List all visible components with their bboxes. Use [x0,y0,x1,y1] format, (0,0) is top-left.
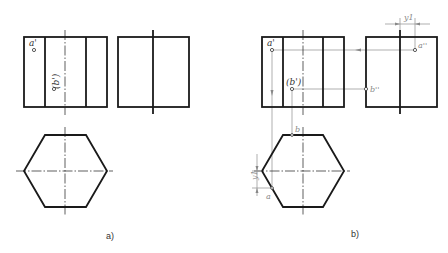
side-view-a [118,30,189,114]
label-y1: y1 [403,13,414,22]
panel-a: a' (b') a) [16,30,189,241]
projection-diagram: a' (b') a) y1 [0,0,448,253]
arrow-icon [415,23,420,26]
panel-b: y1 a' (b') a'' b [250,13,437,239]
front-view-b: a' (b') [262,30,344,115]
label-b-prime: (b') [51,73,61,89]
point-b [291,134,294,137]
arrow-icon [395,23,400,26]
point-b-prime [290,87,293,90]
front-view-a: a' (b') [24,30,107,115]
label-a-prime: a' [267,38,275,48]
point-a-prime [270,48,273,51]
point-a-prime [32,48,35,51]
arrow-icon [355,49,361,52]
label-a-double-prime: a'' [418,41,427,50]
label-b-prime: (b') [286,77,302,87]
label-a-prime: a' [29,38,37,48]
point-a-double-prime [413,48,416,51]
caption-a: a) [106,231,114,241]
top-view-a [16,127,113,215]
label-a: a [266,192,271,201]
arrow-icon [271,90,274,96]
label-b: b [295,125,300,134]
arrow-icon [256,188,259,193]
caption-b: b) [351,229,359,239]
point-b-double-prime [364,87,367,90]
arrow-icon [256,166,259,171]
label-y1-left: y1 [250,170,259,181]
label-b-double-prime: b'' [370,85,380,94]
side-view-b: a'' b'' [364,30,437,114]
top-view-b: b a [254,125,350,215]
